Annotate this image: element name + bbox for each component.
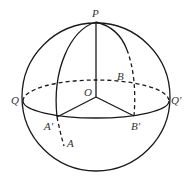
label-o: O xyxy=(84,86,92,98)
label-q-prime: Q' xyxy=(171,94,182,106)
label-q: Q xyxy=(11,94,19,106)
meridian-a xyxy=(56,22,96,117)
meridian-b-upper xyxy=(96,22,127,50)
label-b-prime: B' xyxy=(131,120,141,132)
label-a: A xyxy=(66,137,74,149)
radius-ob-prime xyxy=(96,97,134,116)
radius-oa-prime xyxy=(57,97,96,117)
label-a-prime: A' xyxy=(43,120,54,132)
sphere-diagram: P O Q Q' A' B' A B xyxy=(0,0,191,184)
label-b: B xyxy=(117,70,124,82)
equator-front xyxy=(23,101,169,118)
meridian-a-lower xyxy=(57,117,64,146)
label-p: P xyxy=(91,7,99,19)
